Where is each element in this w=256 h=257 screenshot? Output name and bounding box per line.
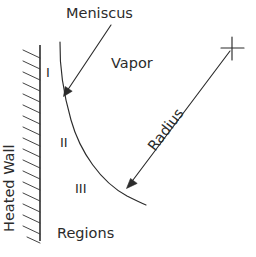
regions-label: Regions <box>57 225 114 241</box>
diagram-svg: Meniscus Vapor Radius Heated Wall Region… <box>0 0 256 257</box>
meniscus-leader-arrow <box>64 25 112 97</box>
region-one-label: I <box>46 65 50 80</box>
heated-wall-label: Heated Wall <box>1 145 17 232</box>
region-two-label: II <box>60 135 68 150</box>
meniscus-label: Meniscus <box>66 5 133 21</box>
curvature-center-plus-icon <box>221 37 244 60</box>
diagram-canvas: Meniscus Vapor Radius Heated Wall Region… <box>0 0 256 257</box>
radius-label: Radius <box>145 105 187 153</box>
heated-wall-hatching <box>23 50 40 243</box>
region-three-label: III <box>75 181 87 196</box>
vapor-label: Vapor <box>111 55 153 71</box>
